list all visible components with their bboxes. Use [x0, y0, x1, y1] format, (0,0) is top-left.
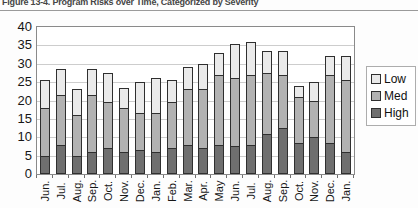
bar-segment-low	[309, 82, 319, 101]
bar-segment-high	[103, 148, 113, 174]
bar-segment-high	[151, 152, 161, 174]
gridline	[37, 64, 354, 65]
y-tick-label: 10	[2, 129, 32, 145]
bar-segment-low	[56, 69, 66, 96]
bar-segment-high	[72, 156, 82, 174]
bar-segment-low	[341, 56, 351, 81]
x-axis-tick	[99, 175, 100, 178]
gridline	[37, 45, 354, 46]
x-tick-label: Nov.	[118, 180, 130, 202]
x-axis-tick	[179, 175, 180, 178]
bar-segment-low	[87, 69, 97, 96]
x-axis-tick	[226, 175, 227, 178]
bar-segment-low	[230, 44, 240, 80]
bar-segment-high	[135, 150, 145, 174]
legend-item-med: Med	[371, 90, 415, 103]
x-axis-tick	[52, 175, 53, 178]
x-tick-label: Oct.	[293, 181, 305, 201]
bar-segment-low	[167, 80, 177, 103]
legend: LowMedHigh	[366, 66, 416, 126]
x-axis-tick	[337, 175, 338, 178]
bar-segment-high	[40, 156, 50, 174]
figure-title: Figure 13-4. Program Risks over Time, Ca…	[2, 0, 258, 8]
bar-segment-high	[309, 137, 319, 174]
x-axis-tick	[147, 175, 148, 178]
bar-segment-low	[72, 89, 82, 116]
bar-segment-med	[119, 108, 129, 153]
x-tick-label: Dec.	[324, 180, 336, 203]
x-axis-tick	[242, 175, 243, 178]
bar-segment-low	[183, 67, 193, 90]
x-axis-tick	[163, 175, 164, 178]
x-axis-tick	[321, 175, 322, 178]
bar-segment-high	[87, 152, 97, 174]
bar-segment-low	[198, 64, 208, 91]
x-tick-label: Jun.	[39, 181, 51, 202]
legend-swatch-icon	[371, 91, 381, 101]
x-axis-tick	[290, 175, 291, 178]
bar-segment-high	[56, 145, 66, 174]
gridline	[37, 101, 354, 102]
bar-segment-med	[72, 115, 82, 156]
x-tick-label: Jan.	[340, 181, 352, 202]
bar-segment-high	[183, 145, 193, 174]
legend-label: Low	[384, 73, 406, 86]
bar-segment-med	[135, 113, 145, 151]
x-tick-label: Oct.	[102, 181, 114, 201]
bar-segment-med	[198, 89, 208, 149]
y-tick-label: 40	[2, 19, 32, 35]
y-tick-label: 20	[2, 93, 32, 109]
bar-segment-high	[246, 145, 256, 174]
x-tick-label: Aug.	[71, 180, 83, 203]
bar-segment-med	[183, 89, 193, 145]
x-axis-tick	[84, 175, 85, 178]
bar-segment-low	[325, 56, 335, 75]
bar-segment-med	[246, 75, 256, 146]
x-axis-tick	[353, 175, 354, 178]
bar-segment-high	[119, 152, 129, 174]
legend-label: High	[384, 107, 409, 120]
bar-segment-med	[40, 108, 50, 157]
legend-item-low: Low	[371, 73, 415, 86]
x-tick-label: Jul.	[55, 182, 67, 199]
bar-segment-high	[294, 143, 304, 174]
legend-label: Med	[384, 90, 407, 103]
bar-segment-low	[262, 51, 272, 74]
y-tick-label: 30	[2, 56, 32, 72]
legend-item-high: High	[371, 107, 415, 120]
bar-segment-med	[262, 73, 272, 135]
x-axis-tick	[36, 175, 37, 178]
bar-segment-high	[198, 148, 208, 174]
gridline	[37, 82, 354, 83]
x-tick-label: Apr.	[197, 181, 209, 201]
bar-segment-med	[230, 78, 240, 147]
bar-segment-med	[151, 113, 161, 153]
x-tick-label: Aug.	[261, 180, 273, 203]
bar-segment-low	[294, 86, 304, 98]
bar-segment-low	[214, 53, 224, 76]
x-tick-label: Sep.	[277, 180, 289, 203]
bar-segment-med	[294, 97, 304, 144]
legend-swatch-icon	[371, 74, 381, 84]
y-tick-label: 15	[2, 111, 32, 127]
x-tick-label: Sep.	[86, 180, 98, 203]
x-axis-tick	[305, 175, 306, 178]
x-tick-label: Jun.	[229, 181, 241, 202]
bar-segment-high	[167, 148, 177, 174]
bar-segment-low	[246, 42, 256, 76]
x-tick-label: Dec.	[134, 180, 146, 203]
bar-segment-low	[135, 82, 145, 114]
x-tick-label: May	[213, 181, 225, 202]
bar-segment-med	[325, 75, 335, 144]
title-rule	[0, 10, 418, 11]
bar-segment-low	[103, 73, 113, 103]
bar-segment-low	[119, 88, 129, 109]
gridline	[37, 119, 354, 120]
x-tick-label: Nov.	[308, 180, 320, 202]
bar-segment-high	[214, 145, 224, 174]
x-tick-label: Jul.	[245, 182, 257, 199]
bar-segment-med	[56, 95, 66, 146]
gridline	[37, 156, 354, 157]
x-axis-tick	[274, 175, 275, 178]
bar-segment-high	[278, 128, 288, 174]
